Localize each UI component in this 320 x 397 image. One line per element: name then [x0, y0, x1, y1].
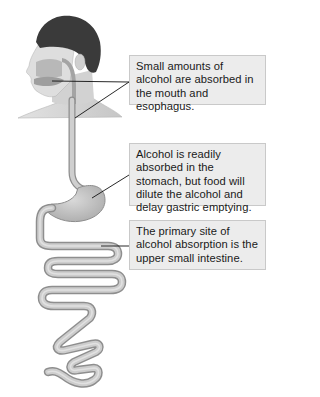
callout-text: Small amounts of alcohol are absorbed in…	[136, 60, 253, 112]
callout-text: The primary site of alcohol absorption i…	[136, 225, 258, 264]
small-intestine	[40, 208, 122, 383]
callout-small-intestine: The primary site of alcohol absorption i…	[129, 220, 266, 270]
callout-text: Alcohol is readily absorbed in the stoma…	[136, 148, 252, 213]
callout-mouth-esophagus: Small amounts of alcohol are absorbed in…	[129, 55, 266, 105]
stomach	[47, 186, 106, 222]
callout-stomach: Alcohol is readily absorbed in the stoma…	[129, 143, 266, 206]
